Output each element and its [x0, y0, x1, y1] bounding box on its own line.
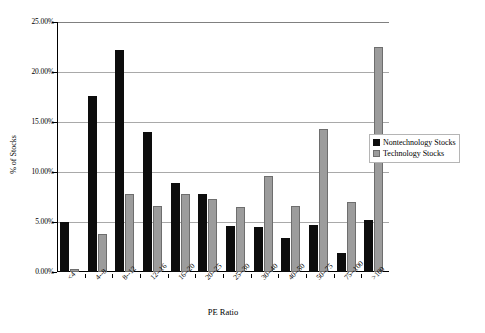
x-tick-7 [278, 274, 279, 278]
bar-nontech-9 [309, 225, 318, 272]
bar-group-2 [112, 22, 140, 272]
bar-nontech-11 [364, 220, 373, 272]
bar-group-3 [140, 22, 168, 272]
pe-ratio-bar-chart: 25.00% 20.00% 15.00% 10.00% 5.00% 0.00% … [0, 0, 485, 333]
bar-tech-4 [181, 194, 190, 272]
y-tick-label-25: 25.00% [12, 18, 54, 26]
x-tick-9 [334, 274, 335, 278]
legend-label-nontechnology: Nontechnology Stocks [383, 138, 456, 147]
bar-nontech-10 [337, 253, 346, 272]
y-tick-label-10: 10.00% [12, 168, 54, 176]
x-tick-6 [251, 274, 252, 278]
bar-group-5 [195, 22, 223, 272]
bar-nontech-2 [115, 50, 124, 272]
x-tick-4 [195, 274, 196, 278]
bar-group-4 [168, 22, 196, 272]
x-axis-title: PE Ratio [57, 307, 389, 317]
bar-nontech-5 [198, 194, 207, 272]
x-tick-5 [223, 274, 224, 278]
bar-group-1 [85, 22, 113, 272]
x-label-0: <4 [66, 270, 77, 281]
x-tick-2 [140, 274, 141, 278]
x-tick-0 [85, 274, 86, 278]
bar-nontech-4 [171, 183, 180, 272]
y-tick-label-15: 15.00% [12, 118, 54, 126]
y-tick-mark-0 [52, 272, 57, 273]
bar-nontech-3 [143, 132, 152, 272]
bars-layer [57, 22, 389, 272]
chart-legend: Nontechnology Stocks Technology Stocks [369, 134, 460, 163]
bar-group-6 [223, 22, 251, 272]
legend-item-nontechnology: Nontechnology Stocks [373, 137, 456, 148]
bar-group-0 [57, 22, 85, 272]
x-tick-3 [168, 274, 169, 278]
y-tick-label-5: 5.00% [12, 218, 54, 226]
bar-nontech-7 [254, 227, 263, 272]
bar-tech-2 [125, 194, 134, 272]
x-axis-labels: <4 4--8 8--12 12--16 16--20 20--25 25--3… [57, 274, 389, 308]
legend-item-technology: Technology Stocks [373, 148, 456, 159]
x-tick-10 [361, 274, 362, 278]
y-tick-label-20: 20.00% [12, 68, 54, 76]
black-square-icon [373, 139, 380, 146]
y-axis-title: % of Stocks [9, 95, 18, 215]
legend-label-technology: Technology Stocks [383, 149, 444, 158]
bar-nontech-8 [281, 238, 290, 272]
bar-tech-7 [264, 176, 273, 272]
bar-group-10 [334, 22, 362, 272]
bar-nontech-6 [226, 226, 235, 272]
bar-group-8 [278, 22, 306, 272]
bar-group-7 [251, 22, 279, 272]
bar-nontech-0 [60, 222, 69, 272]
bar-group-9 [306, 22, 334, 272]
y-tick-label-0: 0.00% [12, 268, 54, 276]
bar-nontech-1 [88, 96, 97, 272]
x-tick-8 [306, 274, 307, 278]
x-tick-1 [112, 274, 113, 278]
bar-tech-9 [319, 129, 328, 272]
gray-square-icon [373, 150, 380, 157]
